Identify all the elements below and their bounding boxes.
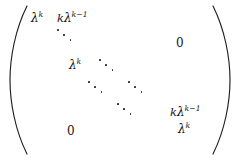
- diagonal-dots-icon-3: [88, 81, 105, 95]
- diagonal-dots-icon-1: [57, 29, 74, 43]
- entry-top-left-diagonal: λk: [31, 12, 43, 25]
- lambda-symbol: λ: [178, 122, 186, 136]
- lower-left-zero: 0: [67, 124, 75, 138]
- entry-bottom-right-diagonal: λk: [178, 123, 190, 136]
- exponent: k−1: [72, 10, 88, 19]
- diagonal-dots-icon-4: [128, 81, 145, 95]
- diagonal-dots-icon-2: [99, 59, 116, 73]
- entry-middle-diagonal: λk: [69, 59, 81, 72]
- exponent: k−1: [185, 104, 201, 113]
- lambda-symbol: λ: [64, 11, 72, 25]
- right-parenthesis-delimiter: [208, 4, 234, 156]
- exponent: k: [186, 121, 191, 130]
- exponent: k: [77, 57, 82, 66]
- entry-top-superdiagonal: kλk−1: [57, 12, 88, 25]
- matrix-figure: λk kλk−1 0 λk kλk−1 λk 0: [0, 0, 243, 160]
- lambda-symbol: λ: [177, 105, 185, 119]
- lambda-symbol: λ: [31, 11, 39, 25]
- left-parenthesis-delimiter: [6, 4, 32, 156]
- coefficient-k: k: [57, 11, 64, 25]
- entry-bottom-superdiagonal: kλk−1: [170, 106, 201, 119]
- exponent: k: [39, 10, 44, 19]
- coefficient-k: k: [170, 105, 177, 119]
- diagonal-dots-icon-5: [117, 103, 134, 117]
- upper-right-zero: 0: [176, 36, 184, 50]
- lambda-symbol: λ: [69, 58, 77, 72]
